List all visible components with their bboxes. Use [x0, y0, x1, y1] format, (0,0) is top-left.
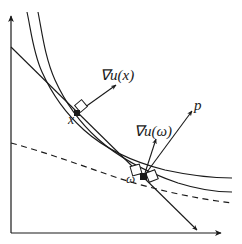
- price-vector-p-arrow: [144, 111, 192, 176]
- point-x-label: x: [68, 113, 74, 127]
- price-vector-label: p: [194, 98, 202, 113]
- indifference-curve-outer: [27, 12, 232, 178]
- budget-line-dashed: [11, 143, 232, 203]
- point-omega-label: ω: [126, 172, 135, 185]
- axes-group: [11, 16, 221, 233]
- diagram-canvas: [0, 0, 242, 244]
- figure-container: ∇u(x) ∇u(ω) p x ω: [0, 0, 242, 244]
- gradient-at-omega-label: ∇u(ω): [134, 124, 172, 139]
- point-marker-omega: [140, 173, 147, 180]
- gradient-at-x-label: ∇u(x): [100, 68, 134, 83]
- point-marker-x: [74, 110, 80, 116]
